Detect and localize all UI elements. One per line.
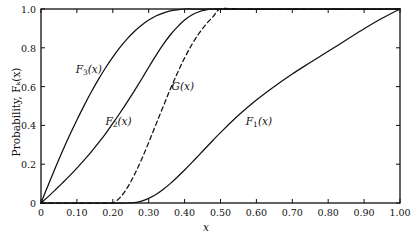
x-tick-label: 0.70: [282, 207, 303, 218]
curve-F1x: [41, 9, 400, 203]
x-tick-label: 0.30: [138, 207, 159, 218]
curve-label-G: G(x): [172, 80, 195, 92]
x-axis-title: x: [0, 221, 412, 233]
curve-label-F1: F1(x): [246, 115, 272, 129]
x-tick-label: 0.10: [66, 207, 87, 218]
cdf-chart-figure: 00.100.200.300.400.500.600.700.800.901.0…: [0, 0, 412, 238]
plot-frame: [41, 9, 400, 203]
curve-Gx: [41, 8, 400, 203]
x-tick-label: 0: [38, 207, 44, 218]
x-tick-label: 0.20: [102, 207, 123, 218]
curve-paths: [41, 8, 400, 203]
x-tick-label: 1.00: [389, 207, 410, 218]
curve-F2x: [41, 9, 400, 203]
y-tick-label: 1.0: [0, 4, 36, 15]
y-axis-title: Probability, Fₖ(x): [10, 17, 22, 207]
x-tick-label: 0.80: [318, 207, 339, 218]
x-tick-label: 0.50: [210, 207, 231, 218]
plot-canvas: [0, 0, 412, 238]
x-tick-label: 0.90: [354, 207, 375, 218]
axis-ticks: [41, 9, 400, 203]
curve-F3x: [41, 9, 400, 203]
curve-label-F3: F3(x): [76, 63, 102, 77]
x-tick-label: 0.60: [246, 207, 267, 218]
x-tick-label: 0.40: [174, 207, 195, 218]
curve-label-F2: F2(x): [105, 115, 131, 129]
